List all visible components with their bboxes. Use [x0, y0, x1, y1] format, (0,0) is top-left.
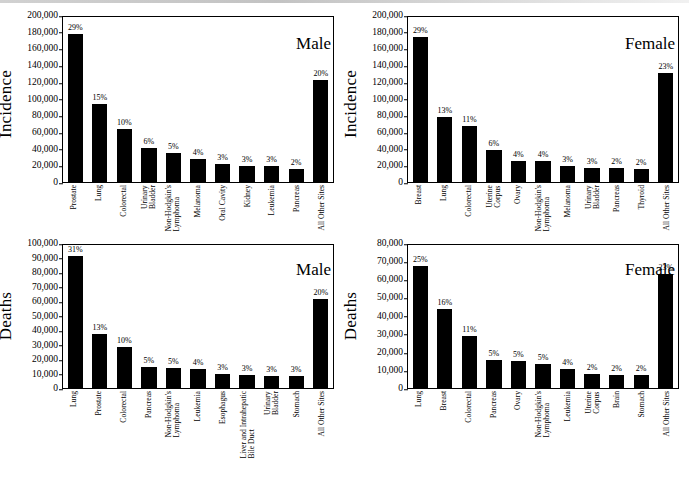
bar[interactable]: 2% — [609, 375, 624, 388]
x-axis-category-line: Pancreas — [489, 391, 497, 418]
x-axis-category-label: Stomach — [293, 391, 301, 418]
x-axis-category-label: Non-Hodgkin'sLymphoma — [165, 185, 181, 232]
x-axis-category-line: Stomach — [638, 391, 646, 418]
x-axis-category-slot: Non-Hodgkin'sLymphoma — [161, 389, 186, 467]
x-axis-category-line: Lymphoma — [173, 185, 181, 232]
x-axis-category-slot: Stomach — [285, 389, 310, 467]
y-axis-tick-label: 40,000 — [32, 145, 58, 155]
bar-data-label: 2% — [611, 364, 622, 373]
y-axis-tick-label: 70,000 — [377, 257, 403, 267]
y-axis-tick-label: 40,000 — [377, 145, 403, 155]
x-axis-category-label: All Other Sites — [663, 185, 671, 231]
x-axis-category-line: Lung — [415, 391, 423, 407]
bar[interactable]: 2% — [289, 169, 304, 182]
x-axis-category-slot: Liver and IntrahepaticBile Duct — [235, 389, 260, 467]
bar-data-label: 5% — [168, 142, 179, 151]
bar[interactable]: 3% — [584, 168, 599, 182]
y-axis-tick-label: 30,000 — [377, 330, 403, 340]
y-axis-tick-label: 0 — [53, 178, 58, 188]
bar-data-label: 3% — [217, 153, 228, 162]
bar[interactable]: 5% — [511, 361, 526, 388]
bar-data-label: 3% — [242, 155, 253, 164]
bar[interactable]: 4% — [190, 369, 205, 388]
bar[interactable]: 29% — [68, 34, 83, 183]
bar[interactable]: 3% — [239, 166, 254, 183]
x-axis-category-line: Melanoma — [194, 185, 202, 217]
x-axis-category-slot: Stomach — [630, 389, 655, 467]
x-axis-category-label: UterineCorpus — [485, 185, 501, 208]
bar-slot: 3% — [210, 245, 235, 388]
bar-data-label: 2% — [291, 158, 302, 167]
y-axis-tick-label: 0 — [53, 384, 58, 394]
bar[interactable]: 23% — [658, 274, 673, 388]
x-axis-category-slot: Pancreas — [136, 389, 161, 467]
x-axis-category-label: Colorectal — [465, 185, 473, 217]
bar[interactable]: 20% — [313, 299, 328, 388]
bar[interactable]: 31% — [68, 256, 83, 388]
x-axis-category-label: Colorectal — [120, 391, 128, 423]
bar[interactable]: 15% — [92, 104, 107, 182]
bar[interactable]: 6% — [486, 150, 501, 182]
bar[interactable]: 11% — [462, 336, 477, 388]
y-axis-tick-label: 40,000 — [32, 326, 58, 336]
bar[interactable]: 5% — [535, 364, 550, 388]
chart-female-deaths: 010,00020,00030,00040,00050,00060,00070,… — [345, 232, 689, 485]
x-axis-category-line: Breast — [440, 391, 448, 410]
bar[interactable]: 4% — [190, 159, 205, 182]
bar[interactable]: 5% — [166, 153, 181, 182]
figure-panel-grid: 020,00040,00060,00080,000100,000120,0001… — [0, 0, 689, 485]
bar[interactable]: 6% — [141, 148, 156, 182]
bar[interactable]: 16% — [437, 309, 452, 388]
bar[interactable]: 11% — [462, 126, 477, 182]
y-axis-tick-label: 100,000 — [27, 95, 58, 105]
x-axis-category-label: Melanoma — [194, 185, 202, 217]
bar-data-label: 20% — [313, 288, 328, 297]
x-axis-category-slot: Prostate — [87, 389, 112, 467]
bar[interactable]: 23% — [658, 73, 673, 182]
x-axis-category-line: Oral Cavity — [219, 185, 227, 221]
bar[interactable]: 2% — [609, 168, 624, 182]
y-axis-tick-label: 80,000 — [32, 268, 58, 278]
bar[interactable]: 10% — [117, 129, 132, 182]
bar[interactable]: 3% — [215, 164, 230, 182]
bar[interactable]: 3% — [264, 376, 279, 388]
bar[interactable]: 2% — [634, 169, 649, 182]
bar[interactable]: 4% — [560, 369, 575, 388]
bar-slot: 3% — [259, 17, 284, 182]
bar[interactable]: 2% — [584, 374, 599, 388]
bar[interactable]: 3% — [264, 166, 279, 182]
bar[interactable]: 5% — [141, 367, 156, 388]
bar-data-label: 11% — [462, 325, 476, 334]
x-axis-category-label: Colorectal — [120, 185, 128, 217]
bar[interactable]: 10% — [117, 347, 132, 388]
bar[interactable]: 4% — [511, 161, 526, 182]
bar[interactable]: 3% — [289, 376, 304, 388]
bar[interactable]: 3% — [239, 375, 254, 388]
y-axis-tick-label: 70,000 — [32, 283, 58, 293]
bar[interactable]: 25% — [413, 266, 428, 388]
bar[interactable]: 13% — [437, 117, 452, 182]
bar[interactable]: 5% — [166, 368, 181, 388]
bar[interactable]: 2% — [634, 375, 649, 388]
x-axis-category-label: All Other Sites — [318, 391, 326, 437]
x-axis-category-line: Lung — [70, 391, 78, 407]
x-axis-category-label: Melanoma — [564, 185, 572, 217]
x-axis-category-slot: All Other Sites — [309, 389, 334, 467]
bar[interactable]: 3% — [215, 374, 230, 388]
bar-slot: 3% — [235, 245, 260, 388]
bar-data-label: 4% — [513, 150, 524, 159]
y-axis-tick-label: 10,000 — [32, 370, 58, 380]
bar[interactable]: 5% — [486, 360, 501, 388]
bar-slot: 29% — [63, 17, 88, 182]
x-axis-category-slot: UrinaryBladder — [260, 389, 285, 467]
x-axis-category-label: Pancreas — [489, 391, 497, 418]
bar[interactable]: 29% — [413, 37, 428, 182]
y-axis-tick-label: 180,000 — [27, 28, 58, 38]
bar-slot: 6% — [482, 17, 507, 182]
bar[interactable]: 3% — [560, 166, 575, 182]
bar[interactable]: 20% — [313, 80, 328, 182]
bar-slot: 3% — [580, 17, 605, 182]
bar-data-label: 10% — [117, 336, 132, 345]
bar[interactable]: 4% — [535, 161, 550, 182]
bar[interactable]: 13% — [92, 334, 107, 388]
